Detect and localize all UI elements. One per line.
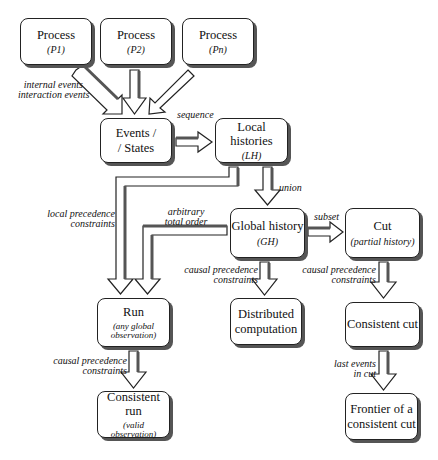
node-title: Run <box>123 305 144 319</box>
label-line: constraints <box>165 275 258 285</box>
arrow-pn-events <box>149 70 194 114</box>
node-distributed-computation: Distributed computation <box>230 298 302 345</box>
node-local-histories: Local histories (LH) <box>215 118 288 163</box>
arrow-lh-gh <box>255 167 280 205</box>
node-consistent-cut: Consistent cut <box>345 302 420 347</box>
label-causal-cut-ccut: causal precedence constraints <box>284 265 376 285</box>
node-process-p2: Process (P2) <box>100 18 172 65</box>
node-subtitle: (LH) <box>242 151 261 161</box>
label-subset: subset <box>314 212 339 222</box>
node-title: Process <box>199 28 237 42</box>
node-title: Frontier of a <box>350 402 412 416</box>
node-subtitle: (GH) <box>257 237 278 247</box>
node-title: Local histories <box>216 120 287 149</box>
label-line: constraints <box>30 219 115 229</box>
label-arbitrary-total-order: arbitrary total order <box>150 207 222 227</box>
node-subtitle-line2: observation) <box>111 430 157 439</box>
label-union: union <box>279 183 302 193</box>
label-line: interaction events <box>18 90 83 100</box>
node-title: Cut <box>373 219 391 233</box>
node-title-line2: computation <box>235 322 298 336</box>
node-process-pn: Process (Pn) <box>182 18 254 65</box>
label-causal-run-crun: causal precedence constraints <box>35 356 127 376</box>
arrow-gh-cut <box>308 222 343 242</box>
node-subtitle-line2: observation) <box>111 331 157 340</box>
node-subtitle: (partial history) <box>350 237 414 247</box>
node-title: Process <box>37 28 75 42</box>
node-cut: Cut (partial history) <box>345 208 420 258</box>
arrow-events-lh <box>176 132 212 152</box>
node-title-line2: / States <box>118 141 154 155</box>
label-last-events: last events in cut <box>320 359 376 379</box>
label-line: constraints <box>284 275 376 285</box>
node-title: Consistent run <box>98 390 169 419</box>
node-events-states: Events / / States <box>100 118 172 163</box>
node-consistent-run: Consistent run (valid observation) <box>97 391 170 438</box>
node-title: Events / <box>116 126 157 140</box>
node-run: Run (any global observation) <box>97 298 170 347</box>
node-title-line2: consistent cut <box>347 417 415 431</box>
node-title: Distributed <box>238 307 294 321</box>
node-subtitle: (Pn) <box>209 45 227 55</box>
arrow-p2-events <box>123 70 146 114</box>
label-line: constraints <box>35 366 127 376</box>
node-title: Consistent cut <box>347 317 418 331</box>
label-local-precedence: local precedence constraints <box>30 209 115 229</box>
node-subtitle: (P1) <box>47 45 65 55</box>
node-process-p1: Process (P1) <box>20 18 92 65</box>
label-line: in cut <box>320 369 376 379</box>
node-frontier: Frontier of a consistent cut <box>345 393 418 440</box>
node-subtitle: (P2) <box>127 45 145 55</box>
label-causal-gh-dc: causal precedence constraints <box>165 265 258 285</box>
label-internal-events: internal events interaction events <box>18 80 83 100</box>
label-line: total order <box>150 217 222 227</box>
node-global-history: Global history (GH) <box>230 208 305 258</box>
node-title: Global history <box>232 219 304 233</box>
node-title: Process <box>117 28 155 42</box>
label-sequence: sequence <box>177 110 214 120</box>
